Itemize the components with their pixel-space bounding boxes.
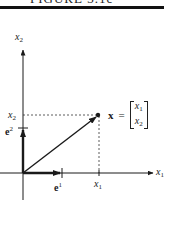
vector-name: x [108,109,114,121]
vector-equation: x = x1 x2 [108,101,148,129]
x-tick-label: x1 [94,179,102,192]
x-axis-label: x1 [156,167,164,180]
column-vector: x1 x2 [130,101,148,129]
vector-x-point [96,113,100,117]
y-tick-label: x2 [8,110,16,123]
e2-label: e2 [5,124,13,137]
component-1: x1 [135,100,143,115]
equals-sign: = [119,109,125,121]
e1-label: e1 [54,180,62,193]
component-2: x2 [135,115,143,130]
y-axis-label: x2 [15,32,23,45]
vector-x-arrow [23,117,96,173]
